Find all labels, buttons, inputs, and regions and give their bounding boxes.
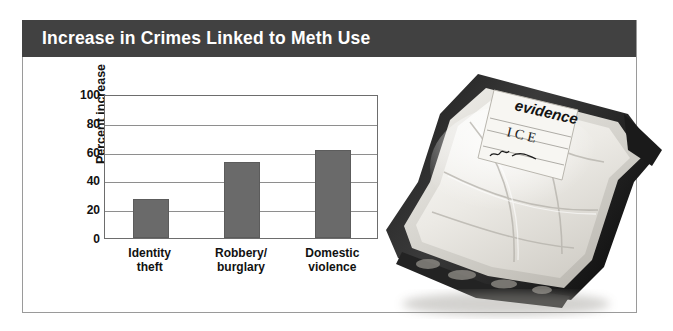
y-axis-tick-labels: 020406080100 — [62, 0, 100, 293]
x-axis-label-line: violence — [287, 260, 378, 274]
x-axis-label-line: Identity — [104, 246, 195, 260]
x-axis-category-label: Domesticviolence — [287, 246, 378, 286]
x-axis-label-line: theft — [104, 260, 195, 274]
evidence-bag-photo: evidence I C E — [366, 62, 666, 324]
plot-area — [104, 95, 378, 239]
gridline — [105, 125, 377, 126]
x-axis-label-line: burglary — [195, 260, 286, 274]
y-axis-tick-label: 80 — [66, 118, 100, 130]
bar — [224, 162, 260, 238]
x-axis-label-line: Domestic — [287, 246, 378, 260]
x-axis-category-labels: IdentitytheftRobbery/burglaryDomesticvio… — [104, 246, 378, 286]
y-axis-tick-label: 0 — [66, 233, 100, 245]
x-axis-category-label: Identitytheft — [104, 246, 195, 286]
bag-shadow — [402, 292, 610, 316]
y-axis-tick-label: 60 — [66, 147, 100, 159]
x-axis-label-line: Robbery/ — [195, 246, 286, 260]
x-axis-category-label: Robbery/burglary — [195, 246, 286, 286]
y-axis-tick-label: 20 — [66, 204, 100, 216]
bar — [133, 199, 169, 238]
y-axis-tick-label: 100 — [66, 89, 100, 101]
y-axis-tick-label: 40 — [66, 175, 100, 187]
evidence-bag-illustration: evidence I C E — [366, 62, 666, 324]
bar-chart: Percent increase 020406080100 Identityth… — [0, 0, 400, 293]
bar — [315, 150, 351, 238]
